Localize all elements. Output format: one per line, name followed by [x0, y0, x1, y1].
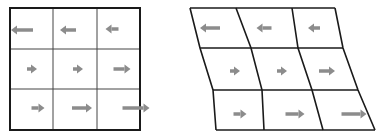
deformation-diagram — [0, 0, 383, 139]
grid-line — [335, 8, 375, 130]
arrow-right-icon — [32, 104, 45, 113]
arrow-right-icon — [234, 110, 247, 119]
arrow-right-icon — [286, 110, 305, 119]
arrow-left-icon — [60, 26, 76, 35]
arrow-left-icon — [200, 24, 220, 33]
regular-grid — [10, 8, 150, 130]
arrow-right-icon — [73, 65, 83, 74]
arrow-right-icon — [342, 110, 367, 119]
arrow-right-icon — [277, 67, 287, 76]
deformed-grid — [190, 8, 375, 130]
arrow-right-icon — [27, 65, 37, 74]
arrow-left-icon — [308, 24, 320, 33]
arrow-right-icon — [230, 67, 240, 76]
arrow-right-icon — [123, 104, 150, 113]
arrow-right-icon — [319, 67, 335, 76]
arrow-left-icon — [257, 24, 272, 33]
arrow-left-icon — [11, 26, 33, 35]
arrow-right-icon — [114, 65, 131, 74]
arrow-left-icon — [106, 25, 119, 34]
arrow-right-icon — [72, 104, 92, 113]
